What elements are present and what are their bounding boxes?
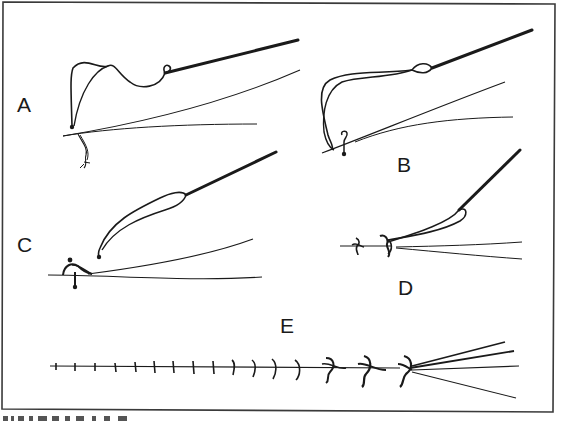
panel-a: A [17, 40, 300, 168]
panel-label-e: E [280, 314, 294, 337]
panel-label-b: B [397, 153, 411, 176]
panel-c: C [17, 152, 276, 289]
tissue-edge-a [63, 70, 300, 136]
needle-a [165, 40, 298, 73]
panel-label-c: C [17, 233, 32, 256]
panel-e: E [50, 314, 519, 398]
thread-c [98, 192, 186, 257]
needle-c [186, 152, 276, 195]
needle-b [432, 30, 532, 68]
panel-b: B [321, 30, 532, 176]
panel-d: D [340, 150, 522, 299]
needle-d [459, 150, 520, 210]
tissue-edge-d [396, 242, 522, 247]
illustration-figure: A B [0, 0, 561, 421]
tissue-edge-b [322, 82, 505, 153]
thread-d [388, 209, 466, 240]
tissue-edge-c [48, 275, 262, 279]
panel-label-a: A [17, 93, 31, 116]
suture-line-e [50, 366, 400, 368]
panel-label-d: D [398, 276, 413, 299]
thread-a [71, 63, 165, 126]
stitch-series-e [56, 359, 300, 380]
figure-caption-cropped [0, 413, 561, 421]
